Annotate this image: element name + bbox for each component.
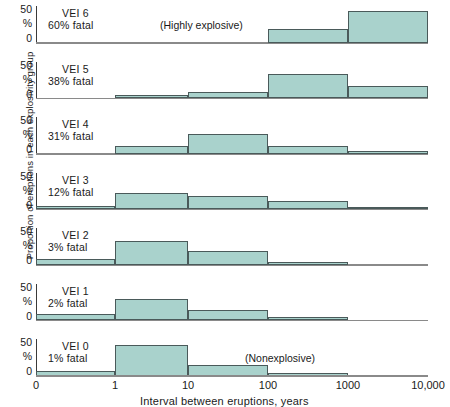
x-tick-100: 100 bbox=[238, 379, 298, 391]
bar bbox=[115, 345, 188, 376]
x-tick-10: 10 bbox=[158, 379, 218, 391]
x-tick-10000: 10,000 bbox=[398, 379, 450, 391]
x-tick-1: 1 bbox=[85, 379, 145, 391]
x-tick-0: 0 bbox=[6, 379, 66, 391]
panel-title-vei-0: VEI 0 bbox=[62, 340, 89, 352]
y-axis-unit-percent: % bbox=[10, 351, 32, 361]
y-tick-50: 50 bbox=[10, 337, 32, 347]
x-tick-1000: 1000 bbox=[318, 379, 378, 391]
x-axis-title: Interval between eruptions, years bbox=[140, 395, 309, 407]
panel-note: (Nonexplosive) bbox=[245, 352, 315, 364]
y-tick-0: 0 bbox=[10, 366, 32, 376]
panel-fatal-label: 1% fatal bbox=[48, 352, 88, 364]
x-axis-line bbox=[36, 375, 428, 377]
